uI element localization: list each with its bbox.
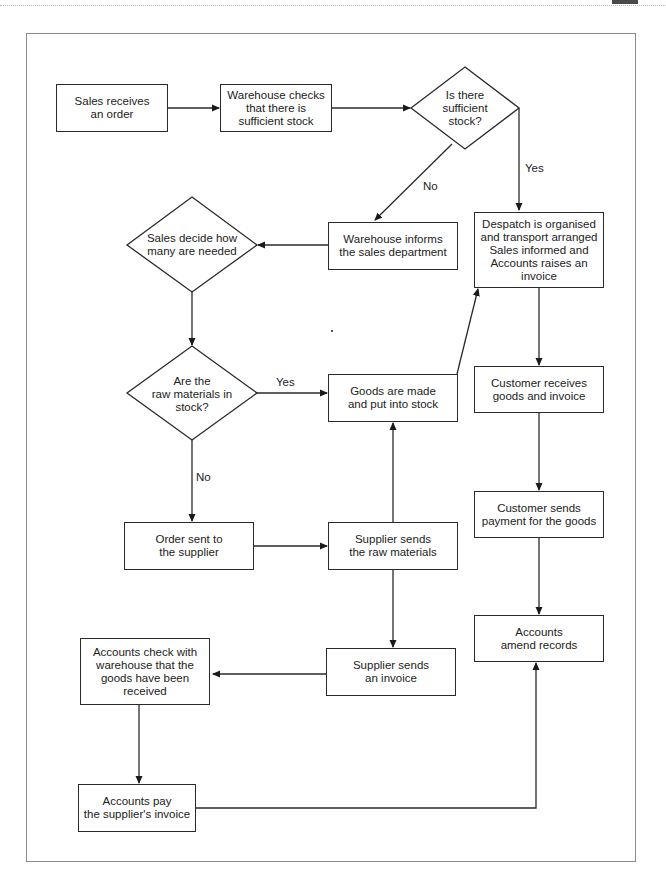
step-sales-receives-order: Sales receives an order bbox=[56, 84, 168, 132]
step-warehouse-checks-stock: Warehouse checks that there is sufficien… bbox=[220, 84, 332, 132]
step-accounts-check-warehouse: Accounts check with warehouse that the g… bbox=[80, 638, 210, 705]
decision-raw-materials-in-stock: Are the raw materials in stock? bbox=[142, 370, 242, 418]
edge-label-raw-no: No bbox=[196, 471, 211, 483]
step-goods-made: Goods are made and put into stock bbox=[328, 374, 458, 422]
step-order-sent-to-supplier: Order sent to the supplier bbox=[124, 522, 254, 570]
flowchart-edges bbox=[0, 0, 666, 886]
edge-label-stock-yes: Yes bbox=[525, 162, 544, 174]
step-supplier-sends-invoice: Supplier sends an invoice bbox=[326, 648, 456, 696]
edge-label-raw-yes: Yes bbox=[276, 376, 295, 388]
decision-sufficient-stock: Is there sufficient stock? bbox=[425, 84, 505, 132]
step-warehouse-informs-sales: Warehouse informs the sales department bbox=[328, 222, 458, 270]
stray-dot bbox=[331, 330, 333, 332]
step-customer-sends-payment: Customer sends payment for the goods bbox=[474, 491, 604, 538]
edge-label-stock-no: No bbox=[423, 180, 438, 192]
decision-sales-decide: Sales decide how many are needed bbox=[142, 228, 242, 262]
step-despatch-organised: Despatch is organised and transport arra… bbox=[474, 212, 604, 288]
step-customer-receives-goods: Customer receives goods and invoice bbox=[474, 366, 604, 413]
step-supplier-sends-raw-materials: Supplier sends the raw materials bbox=[328, 522, 458, 570]
step-accounts-pay-supplier: Accounts pay the supplier's invoice bbox=[78, 784, 196, 832]
step-accounts-amend-records: Accounts amend records bbox=[474, 615, 604, 662]
